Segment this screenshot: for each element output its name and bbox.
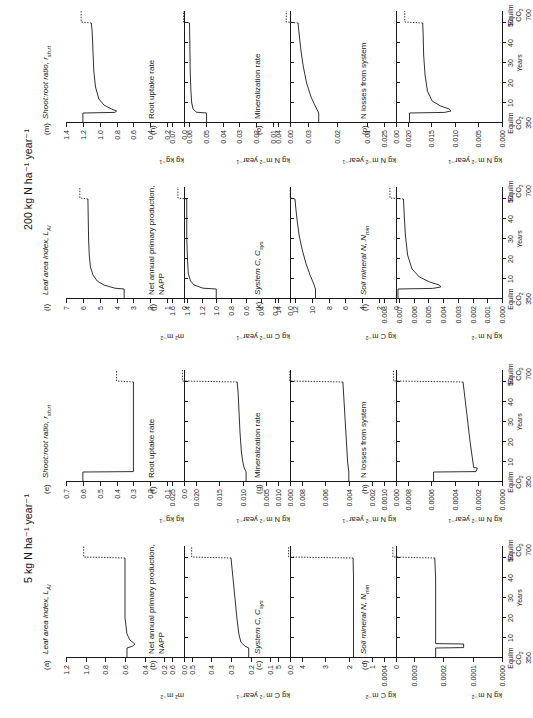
y-tick-label: 0.05 <box>202 130 209 144</box>
panel-title: Soil mineral N, Nmin <box>359 183 372 295</box>
y-tick-label: 0.4 <box>208 665 215 675</box>
y-tick-label: 0.010 <box>239 489 246 507</box>
y-tick <box>66 658 67 662</box>
equilm-co2-350-label-line: CO2 <box>515 471 525 492</box>
y-tick-label: 0.07 <box>169 130 176 144</box>
panel-title: Mineralization rate <box>253 366 263 478</box>
y-tick-label: 0.004 <box>345 489 352 507</box>
y-tick <box>478 123 479 127</box>
y-tick-label: 5 <box>275 665 282 669</box>
y-tick-label: 0.015 <box>216 489 223 507</box>
y-tick-label: 0.03 <box>304 130 311 144</box>
x-tick <box>502 577 506 578</box>
chart-panel-b: (b)Net annual primary production, NAPPkg… <box>146 538 252 710</box>
x-tick <box>502 22 506 23</box>
chart-panel-m: (m)Shoot:root ratio, rsh:rtkg kg⁻¹0.00.2… <box>40 3 146 175</box>
y-tick-label: 7 <box>63 306 70 310</box>
y-tick-label: 4 <box>298 665 305 669</box>
x-tick-label: 10 <box>507 634 514 642</box>
equilm-co2-700-label-line: 700 <box>525 539 533 560</box>
y-tick <box>325 658 326 662</box>
y-tick-label: 0.8 <box>113 130 120 140</box>
y-tick-label: 1.0 <box>82 665 89 675</box>
y-tick <box>172 658 173 662</box>
series-projection <box>405 11 423 23</box>
series-line <box>295 199 315 299</box>
equilm-co2-350-label-line: CO2 <box>515 647 525 668</box>
series-projection <box>84 546 125 558</box>
y-tick <box>384 299 385 303</box>
panel-tag: (g) <box>254 484 263 494</box>
chart-panel-p: (p)N losses from systemkg N m⁻² year⁻¹0.… <box>358 3 464 175</box>
y-tick-label: 5 <box>96 306 103 310</box>
y-tick <box>487 299 488 303</box>
panel-title: Shoot:root ratio, rsh:rt <box>41 7 54 119</box>
y-tick <box>187 299 188 303</box>
equilm-co2-350-label-line: CO2 <box>515 288 525 309</box>
y-tick-label: 0.020 <box>192 489 199 507</box>
panel-title: Mineralization rate <box>253 7 263 119</box>
x-tick <box>502 62 506 63</box>
equilm-co2-350-label-line: 350 <box>525 471 533 492</box>
y-tick-label: 0.06 <box>185 130 192 144</box>
equilm-co2-700-label: EquilmCO2700 <box>507 4 533 25</box>
y-tick <box>337 123 338 127</box>
y-tick-label: 14 <box>275 306 282 314</box>
chart-panel-j: (j)Net annual primary production, NAPPkg… <box>146 179 252 351</box>
x-tick <box>502 42 506 43</box>
y-tick-label: 0.0004 <box>451 489 458 510</box>
equilm-co2-350-label: EquilmCO2350 <box>507 288 533 309</box>
series-projection <box>81 11 91 23</box>
y-tick <box>384 123 385 127</box>
series-line <box>409 23 451 123</box>
equilm-co2-700-label-line: CO2 <box>515 539 525 560</box>
x-axis-title: Years <box>516 413 523 431</box>
y-tick <box>192 658 193 662</box>
x-tick <box>502 198 506 199</box>
equilm-co2-700-label-line: CO2 <box>515 180 525 201</box>
panel-tag: (m) <box>42 123 51 135</box>
x-tick <box>502 238 506 239</box>
y-tick-label: 0.5 <box>188 665 195 675</box>
y-tick-label: 1.6 <box>169 306 176 316</box>
y-tick <box>443 658 444 662</box>
x-tick <box>502 441 506 442</box>
equilm-co2-700-label-line: 700 <box>525 180 533 201</box>
panel-title: Soil mineral N, Nmin <box>359 542 372 654</box>
y-tick-label: 0.007 <box>395 306 402 324</box>
equilm-co2-350-label-line: 350 <box>525 288 533 309</box>
y-tick-label: 3 <box>322 665 329 669</box>
y-tick-label: 0.3 <box>228 665 235 675</box>
x-tick-label: 20 <box>507 79 514 87</box>
x-axis-title: Years <box>516 230 523 248</box>
panel-tag: (b) <box>148 660 157 670</box>
y-tick <box>473 658 474 662</box>
y-tick <box>189 123 190 127</box>
series-line <box>83 23 117 123</box>
y-tick-label: 1.0 <box>96 130 103 140</box>
equilm-co2-700-label-line: 700 <box>525 363 533 384</box>
x-tick <box>502 421 506 422</box>
x-tick <box>502 381 506 382</box>
y-tick-label: 0.015 <box>428 130 435 148</box>
y-tick <box>100 482 101 486</box>
panel-tag: (h) <box>360 484 369 494</box>
series-projection <box>183 11 189 23</box>
y-tick-label: 8 <box>325 306 332 310</box>
plot-area: 0.00000.00020.00040.00060.00080.00101020… <box>384 370 502 482</box>
panel-tag: (j) <box>148 304 157 311</box>
panel-tag: (k) <box>254 302 263 311</box>
y-tick <box>458 299 459 303</box>
y-tick-label: 0.7 <box>63 489 70 499</box>
y-tick-label: 12 <box>291 306 298 314</box>
y-tick-label: 0.0000 <box>499 665 506 686</box>
y-tick-label: 1.2 <box>198 306 205 316</box>
y-tick-label: 0.010 <box>451 130 458 148</box>
y-tick <box>83 482 84 486</box>
y-tick-label: 0.04 <box>219 130 226 144</box>
y-tick-label: 0.6 <box>122 665 129 675</box>
y-tick-label: 0.000 <box>499 130 506 148</box>
y-tick <box>239 123 240 127</box>
panel-title: System C, Csys <box>253 183 266 295</box>
y-tick <box>408 482 409 486</box>
